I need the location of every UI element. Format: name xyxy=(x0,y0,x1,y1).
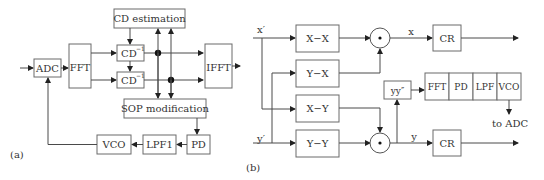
block-diagram: ADC FFT CD estimation CD −1 CD xyxy=(0,0,544,180)
multiplier-top-dot-icon xyxy=(378,36,381,39)
adc-block: ADC xyxy=(34,59,61,77)
yy-block: Y−Y xyxy=(296,130,339,157)
to-adc-note: to ADC xyxy=(492,118,528,129)
x-prime-label: x′ xyxy=(257,24,266,35)
xy-label: X−Y xyxy=(306,103,328,114)
pd-b-label: PD xyxy=(454,82,467,92)
xy-to-mult-bottom-arrow xyxy=(339,108,380,132)
yx-label: Y−X xyxy=(305,68,329,79)
cr-top-label: CR xyxy=(439,33,455,44)
lpf-b-label: LPF xyxy=(476,82,494,92)
cr-bottom-block: CR xyxy=(433,130,461,156)
yy-dprime-label: yy″ xyxy=(390,86,405,96)
vco-label: VCO xyxy=(101,139,125,150)
lpf1-label: LPF1 xyxy=(146,139,173,150)
y-prime-to-yx-arrow xyxy=(272,73,295,143)
ifft-block: IFFT xyxy=(205,44,232,88)
cd-inverse-bottom-superscript: −1 xyxy=(136,72,145,79)
panel-a-caption: (a) xyxy=(10,149,24,160)
yx-block: Y−X xyxy=(296,60,339,87)
multiplier-bottom xyxy=(370,133,390,153)
panel-b: x′ y′ X−X Y−X X−Y Y−Y xyxy=(246,24,528,173)
yx-to-mult-top-arrow xyxy=(339,49,380,73)
vco-block: VCO xyxy=(97,135,131,154)
ifft-label: IFFT xyxy=(206,62,231,73)
y-prime-label: y′ xyxy=(256,133,266,144)
panel-b-caption: (b) xyxy=(246,162,260,173)
xx-block: X−X xyxy=(296,25,339,52)
panel-a: ADC FFT CD estimation CD −1 CD xyxy=(10,9,240,160)
fft-label: FFT xyxy=(70,62,91,73)
lpf1-block: LPF1 xyxy=(143,135,176,154)
multiplier-bottom-dot-icon xyxy=(378,141,381,144)
sop-modification-label: SOP modification xyxy=(121,103,210,114)
pd-block: PD xyxy=(187,135,210,154)
yy-label: Y−Y xyxy=(306,138,329,149)
cd-estimation-label: CD estimation xyxy=(113,13,186,24)
yy-dprime-block: yy″ xyxy=(384,81,411,99)
vco-b-label: VCO xyxy=(498,82,520,92)
adc-label: ADC xyxy=(35,63,59,74)
fft-block: FFT xyxy=(69,44,91,88)
cd-inverse-top-superscript: −1 xyxy=(136,45,145,52)
cd-inverse-top-block: CD −1 xyxy=(117,45,145,61)
carrier-loop-chain: FFT PD LPF VCO xyxy=(425,73,521,100)
cr-top-block: CR xyxy=(433,25,461,51)
multiplier-top xyxy=(370,28,390,48)
cr-bottom-label: CR xyxy=(439,138,455,149)
x-signal-label: x xyxy=(408,26,414,37)
pd-label: PD xyxy=(191,139,206,150)
sop-modification-block: SOP modification xyxy=(121,99,210,118)
y-signal-label: y xyxy=(410,131,417,142)
fft-b-label: FFT xyxy=(428,82,447,92)
xx-label: X−X xyxy=(306,33,329,44)
cd-inverse-top-label: CD xyxy=(121,48,137,59)
cd-inverse-bottom-block: CD −1 xyxy=(117,72,145,88)
xy-block: X−Y xyxy=(296,95,339,122)
cd-inverse-bottom-label: CD xyxy=(121,75,137,86)
cd-estimation-block: CD estimation xyxy=(113,9,186,28)
